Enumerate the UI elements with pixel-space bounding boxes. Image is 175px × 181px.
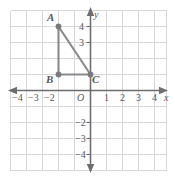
x-tick-label-1: 1 [104,93,109,103]
x-tick-label--2: −2 [44,93,55,103]
y-tick-label-4: 4 [79,22,84,32]
origin-label: O [77,93,84,103]
y-tick-label--4: −4 [75,150,86,160]
point-label-b: B [46,74,53,85]
y-tick-label--3: −3 [75,134,86,144]
x-tick-label-2: 2 [120,93,125,103]
x-tick-label--3: −3 [28,93,39,103]
y-tick-label-3: 3 [79,38,84,48]
y-axis-label: y [94,10,98,20]
point-label-a: A [47,12,54,23]
point-a-marker [56,24,62,30]
x-tick-label-4: 4 [152,93,157,103]
point-b-marker [56,72,62,78]
y-tick-label--2: −2 [75,118,86,128]
x-axis-label: x [164,93,168,103]
coordinate-plane-canvas [0,0,175,181]
x-tick-label--4: −4 [12,93,23,103]
x-tick-label-3: 3 [136,93,141,103]
y-axis-arrow-down [87,164,94,173]
coordinate-plane-figure: −4 −3 −2 1 2 3 4 O x y 4 3 −2 −3 −4 A B … [0,0,175,181]
point-label-c: C [92,74,99,85]
